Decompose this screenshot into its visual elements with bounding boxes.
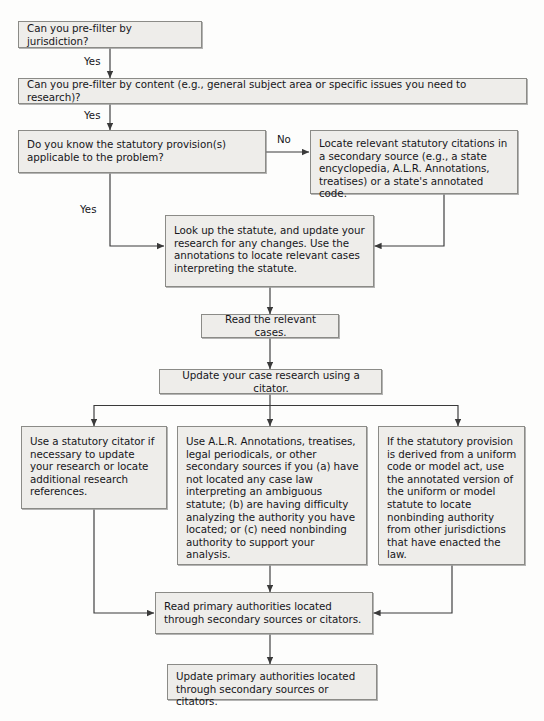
node-locate-statutory-citations[interactable]: Locate relevant statutory citations in a… xyxy=(310,130,518,194)
node-use-statutory-citator[interactable]: Use a statutory citator if necessary to … xyxy=(21,426,167,509)
node-pre-filter-content[interactable]: Can you pre-filter by content (e.g., gen… xyxy=(18,78,527,104)
node-uniform-code-model-act[interactable]: If the statutory provision is derived fr… xyxy=(378,426,525,565)
node-label: Locate relevant statutory citations in a… xyxy=(319,137,510,200)
node-label: Read primary authorities located through… xyxy=(164,600,365,625)
node-label: Read the relevant cases. xyxy=(210,313,331,338)
node-label: If the statutory provision is derived fr… xyxy=(387,435,517,561)
node-label: Can you pre-filter by content (e.g., gen… xyxy=(27,78,519,103)
edge-n4-n5 xyxy=(375,195,445,247)
node-label: Look up the statute, and update your res… xyxy=(174,224,366,274)
edge-n10-n11 xyxy=(374,566,453,614)
edge-n7-n10 xyxy=(270,406,458,427)
node-read-relevant-cases[interactable]: Read the relevant cases. xyxy=(201,314,339,338)
edge-n8-n11 xyxy=(94,510,154,614)
node-label: Update primary authorities located throu… xyxy=(176,670,369,708)
node-update-primary-authorities[interactable]: Update primary authorities located throu… xyxy=(167,664,377,700)
node-look-up-statute[interactable]: Look up the statute, and update your res… xyxy=(165,215,374,287)
edge-n3-n5 xyxy=(110,174,164,247)
edge-n7-n8 xyxy=(94,395,270,427)
node-label: Use A.L.R. Annotations, treatises, legal… xyxy=(186,435,359,561)
node-label: Use a statutory citator if necessary to … xyxy=(30,435,159,498)
node-use-alr-annotations[interactable]: Use A.L.R. Annotations, treatises, legal… xyxy=(177,426,367,565)
node-label: Update your case research using a citato… xyxy=(168,369,374,394)
edge-label-yes-content: Yes xyxy=(84,110,100,121)
node-pre-filter-jurisdiction[interactable]: Can you pre-filter by jurisdiction? xyxy=(18,21,202,48)
node-label: Can you pre-filter by jurisdiction? xyxy=(27,22,194,47)
node-know-statutory-provision[interactable]: Do you know the statutory provision(s) a… xyxy=(18,130,266,173)
node-label: Do you know the statutory provision(s) a… xyxy=(27,138,258,163)
node-read-primary-authorities[interactable]: Read primary authorities located through… xyxy=(155,592,373,634)
edge-label-yes-jurisdiction: Yes xyxy=(84,56,100,67)
edge-label-yes-provision: Yes xyxy=(80,204,96,215)
node-update-case-research-citator[interactable]: Update your case research using a citato… xyxy=(159,369,382,394)
edge-label-no-provision: No xyxy=(277,134,291,145)
flowchart-canvas: Can you pre-filter by jurisdiction? Can … xyxy=(0,0,544,721)
